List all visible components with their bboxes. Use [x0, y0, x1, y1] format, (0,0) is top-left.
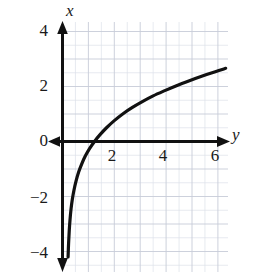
- x-tick-label-4: 4: [152, 147, 174, 164]
- x-tick-label-2: 2: [101, 147, 123, 164]
- log-curve: [68, 68, 226, 257]
- x-axis-name-label: y: [232, 126, 240, 143]
- y-axis-up-arrowhead: [57, 21, 68, 34]
- y-tick-label-2: 2: [28, 77, 48, 94]
- graph-figure: x y 4 2 0 −2 −4 2 4 6: [0, 0, 255, 274]
- y-tick-label-negative-4: −4: [14, 244, 48, 261]
- y-axis-name-label: x: [66, 2, 74, 19]
- x-axis-left-arrowhead: [48, 136, 60, 146]
- y-tick-label-0: 0: [28, 132, 48, 149]
- x-tick-label-6: 6: [204, 147, 226, 164]
- y-tick-label-negative-2: −2: [14, 189, 48, 206]
- y-tick-label-4: 4: [28, 22, 48, 39]
